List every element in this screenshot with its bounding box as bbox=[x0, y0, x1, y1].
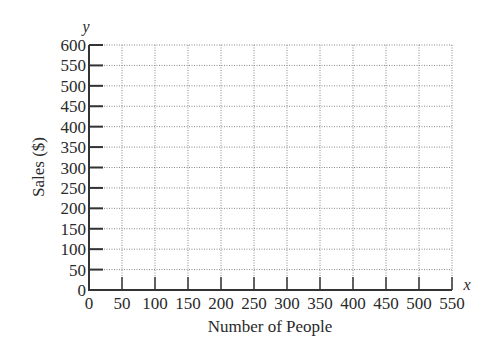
x-tick-label: 350 bbox=[307, 294, 333, 313]
y-tick-label: 150 bbox=[61, 220, 87, 239]
x-tick-label: 550 bbox=[439, 294, 465, 313]
x-tick-label: 500 bbox=[406, 294, 432, 313]
y-tick-label: 350 bbox=[61, 138, 87, 157]
y-tick-label: 300 bbox=[61, 159, 87, 178]
x-tick-label: 0 bbox=[85, 294, 94, 313]
x-tick-label: 50 bbox=[114, 294, 131, 313]
y-tick-label: 200 bbox=[61, 199, 87, 218]
y-tick-label: 500 bbox=[61, 77, 87, 96]
y-tick-label: 550 bbox=[61, 56, 87, 75]
y-axis-title: Sales ($) bbox=[29, 137, 48, 197]
x-tick-label: 450 bbox=[373, 294, 399, 313]
y-variable-label: y bbox=[80, 18, 90, 36]
y-tick-label: 450 bbox=[61, 97, 87, 116]
x-tick-label: 150 bbox=[175, 294, 201, 313]
chart-canvas: 0501001502002503003504004505005506000501… bbox=[0, 0, 501, 359]
x-tick-label: 300 bbox=[274, 294, 300, 313]
y-tick-label: 600 bbox=[61, 36, 87, 55]
y-tick-label: 50 bbox=[69, 261, 86, 280]
y-tick-label: 100 bbox=[61, 240, 87, 259]
x-tick-label: 200 bbox=[208, 294, 234, 313]
x-tick-label: 400 bbox=[340, 294, 366, 313]
x-tick-label: 250 bbox=[241, 294, 267, 313]
y-tick-label: 250 bbox=[61, 179, 87, 198]
y-tick-label: 400 bbox=[61, 118, 87, 137]
x-tick-label: 100 bbox=[142, 294, 168, 313]
x-axis-title: Number of People bbox=[208, 317, 333, 336]
x-variable-label: x bbox=[462, 276, 470, 293]
